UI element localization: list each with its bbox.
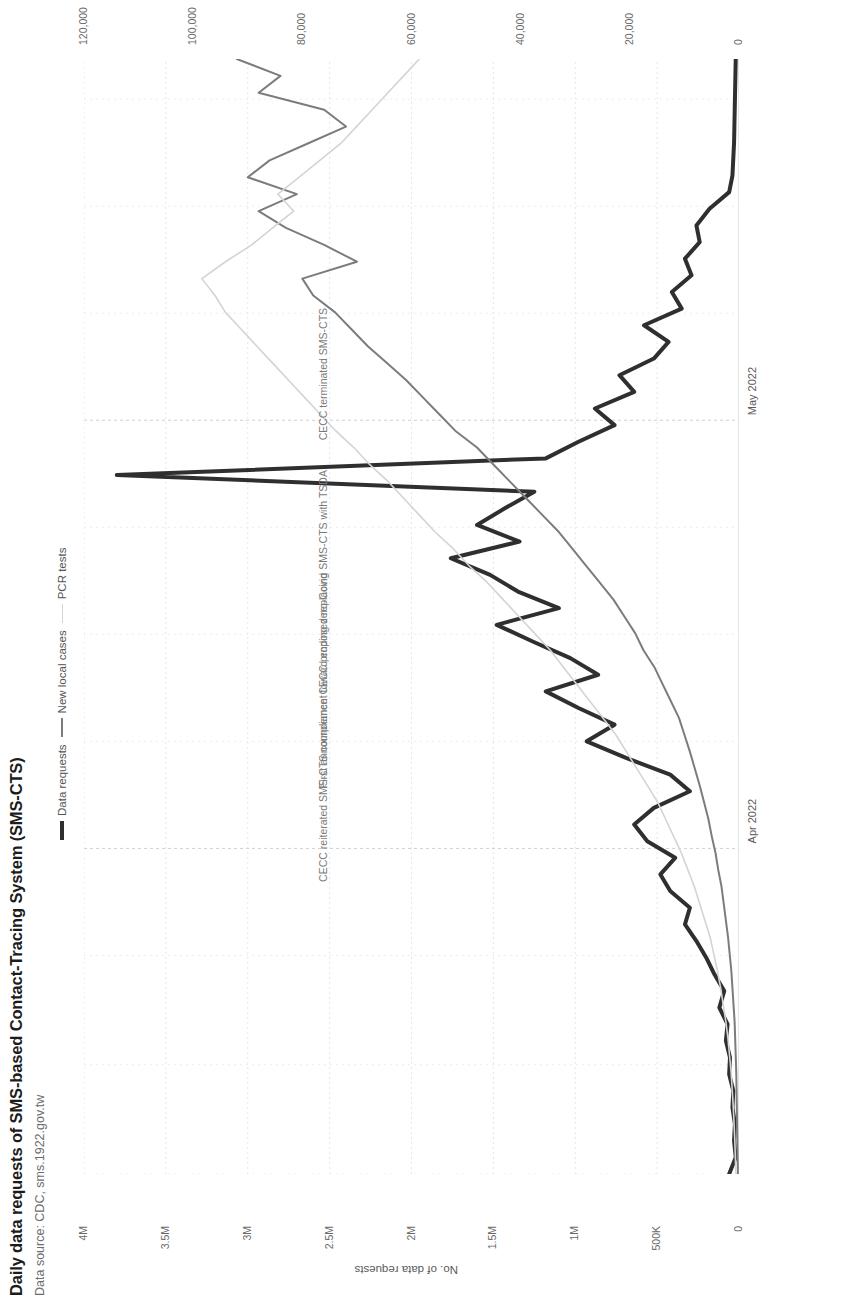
- chart-figure: Daily data requests of SMS-based Contact…: [0, 0, 845, 1302]
- ytick-requests-2: 1M: [568, 1226, 580, 1302]
- chart-svg: [84, 59, 739, 1174]
- legend-swatch-pcr-tests: [62, 604, 63, 623]
- legend-swatch-new-local-cases: [61, 718, 63, 737]
- rotated-figure-frame: Daily data requests of SMS-based Contact…: [0, 0, 845, 1302]
- ytick-requests-0: 0: [732, 1226, 744, 1302]
- legend-label-new-local-cases: New local cases: [56, 630, 68, 713]
- ytick-requests-8: 4M: [77, 1226, 89, 1302]
- chart-legend: Data requests New local cases PCR tests: [56, 548, 68, 840]
- ytick-cases-1: 20,000: [623, 13, 635, 45]
- legend-swatch-data-requests: [60, 821, 64, 840]
- gridlines: [84, 59, 739, 1174]
- ytick-requests-5: 2.5M: [323, 1226, 335, 1302]
- legend-item-pcr-tests: PCR tests: [56, 548, 68, 624]
- series-lines: [117, 59, 738, 1174]
- annotation-2: CECC proposed replacing SMS-CTS with TSD…: [317, 470, 329, 694]
- series-line-data-requests: [117, 59, 736, 1174]
- ytick-requests-1: 500K: [650, 1226, 662, 1302]
- plot-area: [84, 59, 739, 1174]
- data-source-label: Data source: CDC, sms.1922.gov.tw: [33, 1095, 47, 1296]
- ytick-cases-2: 40,000: [514, 13, 526, 45]
- ytick-requests-6: 3M: [241, 1226, 253, 1302]
- ytick-cases-4: 80,000: [295, 13, 307, 45]
- ytick-cases-6: 120,000: [77, 7, 89, 45]
- legend-item-new-local-cases: New local cases: [56, 630, 68, 737]
- page-title: Daily data requests of SMS-based Contact…: [7, 757, 26, 1296]
- xtick-1: May 2022: [746, 367, 758, 415]
- annotation-3: CECC terminated SMS-CTS: [317, 308, 329, 440]
- ytick-requests-3: 1.5M: [486, 1226, 498, 1302]
- ytick-cases-0: 0: [732, 39, 744, 45]
- axis-title-data-requests: No. of data requests: [354, 1264, 458, 1276]
- legend-item-data-requests: Data requests: [56, 744, 68, 840]
- series-line-new-local-cases: [237, 59, 738, 1174]
- legend-label-pcr-tests: PCR tests: [56, 548, 68, 600]
- ytick-cases-3: 60,000: [405, 13, 417, 45]
- ytick-requests-7: 3.5M: [159, 1226, 171, 1302]
- legend-label-data-requests: Data requests: [56, 744, 68, 816]
- ytick-cases-5: 100,000: [186, 7, 198, 45]
- xtick-0: Apr 2022: [746, 799, 758, 844]
